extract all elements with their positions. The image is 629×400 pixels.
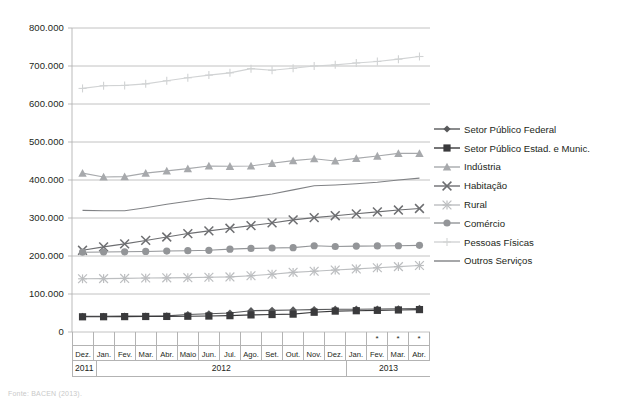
legend-marker-asterisk-icon: [432, 198, 462, 212]
x-axis-provisional-cell: *: [409, 332, 430, 345]
y-axis-tick-label: 500.000: [4, 137, 64, 147]
x-axis-month-row: Dez.Jan.Fev.Mar.Abr.MaioJun.Jul.Ago.Set.…: [73, 345, 430, 360]
x-axis-month-label: Fev.: [115, 345, 136, 360]
series-com-rcio: [79, 242, 423, 256]
series-pessoas-f-sicas: [79, 53, 424, 93]
x-axis-provisional-cell: [178, 332, 199, 345]
y-axis-tick-label: 600.000: [4, 99, 64, 109]
axis-lines: [68, 28, 72, 332]
x-axis: *** Dez.Jan.Fev.Mar.Abr.MaioJun.Jul.Ago.…: [72, 332, 430, 377]
legend-label: Setor Público Federal: [462, 124, 556, 135]
x-axis-year-label: 2011: [73, 361, 97, 376]
x-axis-month-label: Fev.: [367, 345, 388, 360]
y-axis-tick-label: 800.000: [4, 23, 64, 33]
legend-item-setor-p-blico-federal[interactable]: Setor Público Federal: [432, 120, 624, 139]
x-axis-month-label: Jul.: [220, 345, 241, 360]
x-axis-month-label: Abr.: [409, 345, 430, 360]
x-axis-month-label: Jan.: [346, 345, 367, 360]
legend-item-pessoas-f-sicas[interactable]: Pessoas Físicas: [432, 233, 624, 252]
legend-item-habita-o[interactable]: Habitação: [432, 176, 624, 195]
legend-label: Setor Público Estad. e Munic.: [462, 143, 590, 154]
x-axis-provisional-cell: *: [388, 332, 409, 345]
x-axis-month-label: Jun.: [199, 345, 220, 360]
chart-legend: Setor Público FederalSetor Público Estad…: [432, 120, 624, 270]
x-axis-provisional-row: ***: [73, 332, 430, 345]
x-axis-provisional-cell: *: [367, 332, 388, 345]
x-axis-provisional-cell: [283, 332, 304, 345]
legend-label: Pessoas Físicas: [462, 237, 534, 248]
x-axis-month-label: Ago.: [241, 345, 262, 360]
x-axis-provisional-cell: [325, 332, 346, 345]
x-axis-provisional-cell: [136, 332, 157, 345]
chart-container: 800.000700.000600.000500.000400.000300.0…: [0, 0, 629, 400]
x-axis-month-label: Out.: [283, 345, 304, 360]
x-axis-year-row: 201120122013: [73, 360, 430, 377]
x-axis-provisional-cell: [94, 332, 115, 345]
x-axis-year-label: 2013: [347, 361, 430, 376]
x-axis-provisional-cell: [304, 332, 325, 345]
x-axis-month-label: Jan.: [94, 345, 115, 360]
legend-marker-circle-icon: [432, 216, 462, 230]
legend-label: Habitação: [462, 180, 507, 191]
x-axis-provisional-cell: [346, 332, 367, 345]
series-ind-stria: [78, 149, 423, 180]
legend-item-setor-p-blico-estad-e-munic[interactable]: Setor Público Estad. e Munic.: [432, 139, 624, 158]
x-axis-month-label: Nov.: [304, 345, 325, 360]
source-caption: Fonte: BACEN (2013).: [8, 390, 82, 397]
x-axis-provisional-cell: [115, 332, 136, 345]
legend-label: Indústria: [462, 161, 501, 172]
x-axis-month-label: Mar.: [388, 345, 409, 360]
y-axis-tick-label: 200.000: [4, 251, 64, 261]
series-outros-servi-os: [83, 178, 420, 211]
x-axis-provisional-cell: [241, 332, 262, 345]
legend-label: Comércio: [462, 218, 505, 229]
legend-item-outros-servi-os[interactable]: Outros Serviços: [432, 252, 624, 271]
y-axis-tick-label: 400.000: [4, 175, 64, 185]
legend-marker-x-icon: [432, 179, 462, 193]
legend-marker-line-icon: [432, 254, 462, 268]
x-axis-provisional-cell: [220, 332, 241, 345]
series-layer: [78, 53, 424, 321]
legend-marker-diamond-icon: [432, 122, 462, 136]
legend-marker-triangle-icon: [432, 160, 462, 174]
y-axis-tick-label: 300.000: [4, 213, 64, 223]
x-axis-provisional-cell: [157, 332, 178, 345]
legend-item-rural[interactable]: Rural: [432, 195, 624, 214]
x-axis-month-label: Abr.: [157, 345, 178, 360]
legend-item-com-rcio[interactable]: Comércio: [432, 214, 624, 233]
y-axis-tick-label: 0: [4, 327, 64, 337]
legend-item-ind-stria[interactable]: Indústria: [432, 158, 624, 177]
x-axis-month-label: Maio: [178, 345, 199, 360]
x-axis-month-label: Set.: [262, 345, 283, 360]
legend-marker-square-icon: [432, 141, 462, 155]
x-axis-month-label: Dez.: [325, 345, 346, 360]
x-axis-year-label: 2012: [97, 361, 347, 376]
y-axis-tick-label: 700.000: [4, 61, 64, 71]
x-axis-month-label: Dez.: [73, 345, 94, 360]
series-rural: [78, 261, 424, 283]
legend-marker-plus-icon: [432, 235, 462, 249]
legend-label: Outros Serviços: [462, 255, 532, 266]
x-axis-month-label: Mar.: [136, 345, 157, 360]
legend-label: Rural: [462, 199, 487, 210]
y-axis-tick-label: 100.000: [4, 289, 64, 299]
x-axis-provisional-cell: [262, 332, 283, 345]
x-axis-provisional-cell: [73, 332, 94, 345]
x-axis-provisional-cell: [199, 332, 220, 345]
